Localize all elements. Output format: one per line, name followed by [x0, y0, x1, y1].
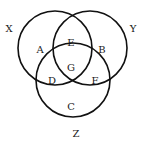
set-y-label: Y: [129, 23, 137, 34]
set-x-label: X: [5, 23, 13, 34]
region-d-label: D: [48, 75, 56, 86]
region-b-label: B: [98, 44, 105, 55]
venn-diagram: X Y Z A E B G D F C: [0, 0, 144, 142]
region-c-label: C: [67, 101, 75, 112]
region-a-label: A: [35, 44, 44, 55]
region-g-label: G: [67, 62, 75, 73]
region-f-label: F: [92, 75, 99, 86]
set-z-label: Z: [73, 128, 80, 139]
region-e-label: E: [67, 37, 74, 48]
